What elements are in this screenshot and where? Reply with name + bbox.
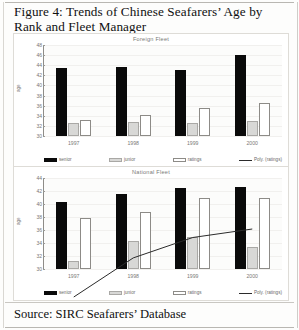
figure-page: Figure 4: Trends of Chinese Seafarers’ A… <box>0 0 299 330</box>
y-axis-tick-label: 38 <box>36 214 42 220</box>
y-axis-tick-label: 44 <box>36 175 42 181</box>
y-axis-tick-label: 36 <box>36 103 42 109</box>
trendline-path <box>74 229 253 297</box>
legend-swatch-junior-icon <box>109 291 122 295</box>
chart-title: National Fleet <box>14 169 288 175</box>
legend-label-junior: junior <box>124 290 135 295</box>
chart-legend: senior junior ratings Poly. (ratings) <box>44 290 282 295</box>
legend-swatch-ratings-icon <box>173 291 186 295</box>
y-axis-tick-label: 48 <box>36 42 42 48</box>
legend-item-ratings: ratings <box>173 157 202 162</box>
legend-item-junior: junior <box>109 157 135 162</box>
legend-item-ratings: ratings <box>173 290 202 295</box>
legend-label-senior: senior <box>59 290 72 295</box>
legend-swatch-trendline-icon <box>239 158 252 162</box>
legend-label-trend: Poly. (ratings) <box>254 290 282 295</box>
y-axis-tick-label: 42 <box>36 72 42 78</box>
chart-legend: senior junior ratings Poly. (ratings) <box>44 157 282 162</box>
y-axis-tick-label: 30 <box>36 266 42 272</box>
y-axis-tick-label: 40 <box>36 201 42 207</box>
legend-swatch-ratings-icon <box>173 158 186 162</box>
legend-swatch-trendline-icon <box>239 291 252 295</box>
chart-national-fleet: National Fleet age 4442403836343230 1997… <box>13 166 289 301</box>
legend-label-trend: Poly. (ratings) <box>254 157 282 162</box>
figure-title: Figure 4: Trends of Chinese Seafarers’ A… <box>14 5 286 34</box>
chart-title: Foreign Fleet <box>14 36 288 42</box>
legend-item-trend: Poly. (ratings) <box>239 290 282 295</box>
y-axis-tick-label: 32 <box>36 253 42 259</box>
plot-area: 4442403836343230 1997199819992000 <box>43 178 282 270</box>
legend-swatch-junior-icon <box>109 158 122 162</box>
y-axis-label: age <box>16 84 21 92</box>
y-axis-tick-label: 36 <box>36 227 42 233</box>
y-axis-tick-label: 46 <box>36 52 42 58</box>
y-axis-tick-label: 30 <box>36 133 42 139</box>
legend-swatch-senior-icon <box>44 291 57 295</box>
legend-label-ratings: ratings <box>188 290 202 295</box>
legend-label-junior: junior <box>124 157 135 162</box>
legend-label-senior: senior <box>59 157 72 162</box>
y-axis-label: age <box>16 217 21 225</box>
chart-foreign-fleet: Foreign Fleet age 48464442403836343230 1… <box>13 33 289 168</box>
y-axis-tick-label: 34 <box>36 113 42 119</box>
legend-swatch-senior-icon <box>44 158 57 162</box>
plot-area: 48464442403836343230 1997199819992000 <box>43 45 282 137</box>
y-axis-tick-label: 44 <box>36 62 42 68</box>
y-axis-tick-label: 34 <box>36 240 42 246</box>
page-rule-bottom <box>5 327 294 328</box>
legend-item-senior: senior <box>44 290 72 295</box>
figure-source: Source: SIRC Seafarers’ Database <box>14 307 289 322</box>
legend-item-trend: Poly. (ratings) <box>239 157 282 162</box>
page-rule-mid <box>5 302 294 303</box>
legend-item-junior: junior <box>109 290 135 295</box>
y-axis-tick-label: 32 <box>36 123 42 129</box>
legend-label-ratings: ratings <box>188 157 202 162</box>
y-axis-tick-label: 40 <box>36 82 42 88</box>
y-axis-tick-label: 38 <box>36 93 42 99</box>
legend-item-senior: senior <box>44 157 72 162</box>
page-rule-top <box>5 2 294 3</box>
y-axis-tick-label: 42 <box>36 188 42 194</box>
